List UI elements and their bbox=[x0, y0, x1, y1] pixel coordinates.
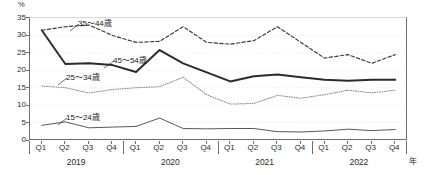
x-tick-label-q: Q4 bbox=[287, 143, 313, 152]
series-leader-45-54 bbox=[104, 61, 115, 69]
x-tick-mark bbox=[229, 141, 230, 144]
x-tick-label-q: Q2 bbox=[240, 143, 266, 152]
gridlines bbox=[30, 18, 407, 123]
series-label-15-24: 15〜24歳 bbox=[66, 113, 100, 122]
x-tick-label-q: Q3 bbox=[263, 143, 289, 152]
x-tick-mark bbox=[64, 141, 65, 144]
x-tick-mark bbox=[88, 141, 89, 144]
x-tick-label-q: Q1 bbox=[28, 143, 54, 152]
x-tick-label-q: Q4 bbox=[381, 143, 407, 152]
x-axis-year-label: 2021 bbox=[235, 157, 295, 167]
x-tick-label-q: Q1 bbox=[216, 143, 242, 152]
y-tick-label-25: 25 bbox=[4, 49, 26, 57]
x-tick-mark bbox=[371, 141, 372, 144]
x-tick-mark bbox=[41, 141, 42, 144]
x-tick-label-q: Q4 bbox=[193, 143, 219, 152]
y-tick-label-30: 30 bbox=[4, 31, 26, 39]
series-label-25-34: 25〜34歳 bbox=[66, 73, 100, 82]
x-axis-year-label: 2019 bbox=[46, 157, 106, 167]
x-axis-unit-label: 年 bbox=[409, 157, 417, 166]
series-label-35-44: 35〜44歳 bbox=[78, 19, 112, 28]
series-line-0 bbox=[42, 25, 395, 63]
x-tick-label-q: Q1 bbox=[311, 143, 337, 152]
x-tick-mark bbox=[253, 141, 254, 144]
x-tick-label-q: Q1 bbox=[122, 143, 148, 152]
y-tick-label-35: 35 bbox=[4, 14, 26, 22]
x-tick-mark bbox=[111, 141, 112, 144]
x-tick-mark bbox=[347, 141, 348, 144]
y-tick-label-0: 0 bbox=[4, 136, 26, 144]
x-tick-mark bbox=[182, 141, 183, 144]
x-tick-label-q: Q3 bbox=[358, 143, 384, 152]
y-tick-label-15: 15 bbox=[4, 84, 26, 92]
x-tick-label-q: Q3 bbox=[169, 143, 195, 152]
series-label-45-54: 45〜54歳 bbox=[113, 56, 147, 65]
y-tick-label-5: 5 bbox=[4, 119, 26, 127]
chart-container: % 35 30 25 20 15 10 5 0 35〜44歳 45〜54歳 25… bbox=[0, 0, 429, 175]
x-tick-mark bbox=[159, 141, 160, 144]
x-tick-mark bbox=[135, 141, 136, 144]
x-tick-label-q: Q2 bbox=[334, 143, 360, 152]
x-tick-mark bbox=[300, 141, 301, 144]
series-leader-25-34 bbox=[58, 78, 68, 86]
y-tick-label-10: 10 bbox=[4, 101, 26, 109]
y-axis-unit-label: % bbox=[18, 1, 25, 9]
x-tick-label-q: Q3 bbox=[75, 143, 101, 152]
x-tick-mark bbox=[324, 141, 325, 144]
series-leader-35-44 bbox=[70, 24, 80, 32]
x-tick-mark bbox=[206, 141, 207, 144]
x-axis-year-label: 2020 bbox=[140, 157, 200, 167]
x-tick-mark bbox=[394, 141, 395, 144]
x-axis-year-label: 2022 bbox=[329, 157, 389, 167]
x-tick-label-q: Q2 bbox=[51, 143, 77, 152]
x-tick-label-q: Q4 bbox=[98, 143, 124, 152]
x-axis: Q1Q2Q3Q42019Q1Q2Q3Q42020Q1Q2Q3Q42021Q1Q2… bbox=[29, 141, 407, 175]
y-tick-label-20: 20 bbox=[4, 66, 26, 74]
x-tick-mark bbox=[276, 141, 277, 144]
x-tick-label-q: Q2 bbox=[146, 143, 172, 152]
series-leader-15-24 bbox=[58, 118, 68, 126]
